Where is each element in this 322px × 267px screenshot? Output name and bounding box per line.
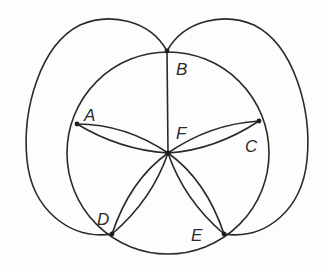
edge-e-f-left: [168, 153, 224, 234]
vertex-d: [110, 232, 115, 237]
edge-b-f: [167, 51, 168, 153]
label-c: C: [245, 137, 258, 156]
outer-loop-right: [167, 19, 308, 235]
edge-d-f-left: [112, 153, 168, 234]
edge-e-f-right: [168, 153, 224, 234]
label-b: B: [176, 60, 187, 79]
label-e: E: [191, 226, 203, 245]
vertex-f: [165, 150, 170, 155]
label-a: A: [83, 106, 95, 125]
edge-d-f-right: [112, 153, 168, 234]
graph-diagram: A B C D E F: [0, 0, 322, 267]
label-d: D: [97, 210, 109, 229]
vertex-e: [222, 232, 227, 237]
vertex-b: [165, 49, 170, 54]
vertex-c: [257, 119, 262, 124]
label-f: F: [176, 124, 188, 143]
edge-a-f-upper: [77, 124, 168, 153]
vertex-a: [75, 122, 80, 127]
edge-a-f-lower: [77, 124, 168, 153]
outer-loop-left: [26, 19, 167, 235]
